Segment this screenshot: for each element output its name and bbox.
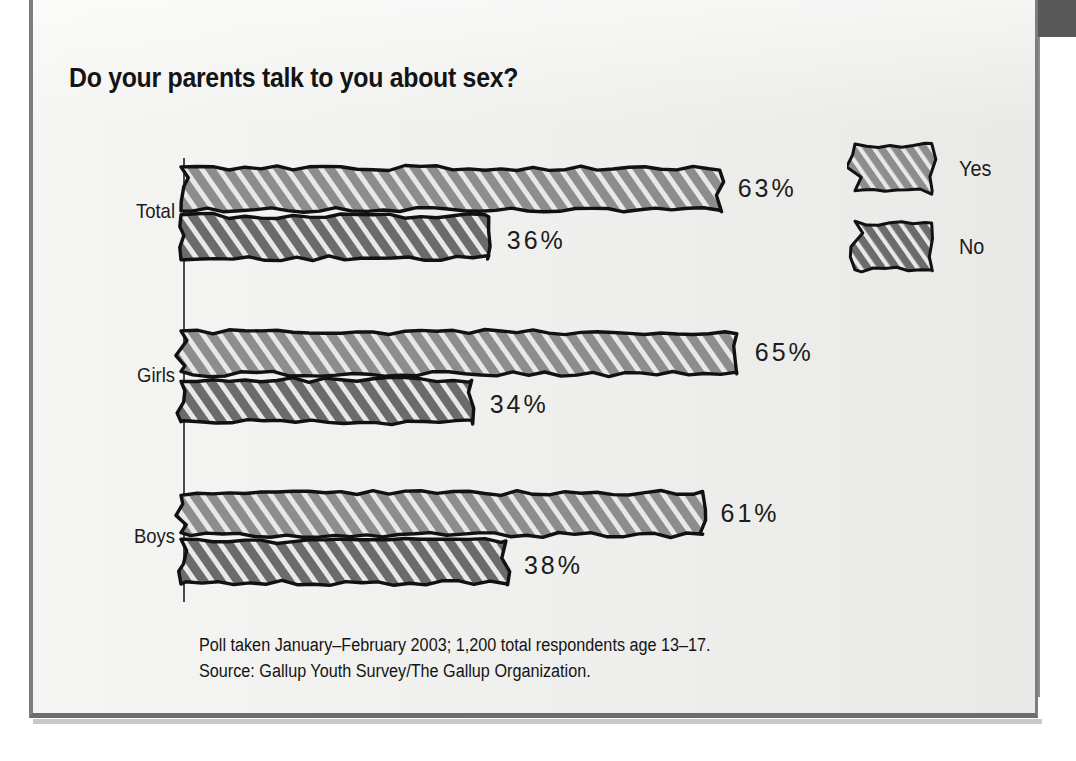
legend-swatch-yes — [847, 140, 943, 200]
legend-swatch-no — [847, 218, 943, 278]
value-label-boys-yes: 61% — [721, 499, 780, 528]
category-label-boys: Boys — [66, 524, 175, 548]
value-label-total-no: 36% — [507, 226, 566, 255]
legend-label-yes: Yes — [959, 156, 991, 182]
value-label-girls-no: 34% — [490, 390, 549, 419]
value-label-girls-yes: 65% — [755, 338, 814, 367]
footnote-line-2: Source: Gallup Youth Survey/The Gallup O… — [199, 658, 711, 684]
legend-label-no: No — [959, 234, 984, 260]
chart-legend: YesNo — [847, 140, 1027, 296]
chart-footnote: Poll taken January–February 2003; 1,200 … — [199, 632, 711, 684]
value-label-total-yes: 63% — [738, 174, 797, 203]
legend-item-yes[interactable]: Yes — [847, 140, 1027, 218]
plot-area: Total63%36%Girls65%34%Boys61%38% — [33, 0, 1042, 718]
category-label-total: Total — [66, 199, 175, 223]
bar-total-no — [171, 206, 499, 268]
figure-drop-shadow — [33, 719, 1042, 724]
value-label-boys-no: 38% — [524, 551, 583, 580]
bar-boys-no — [171, 531, 516, 593]
footnote-line-1: Poll taken January–February 2003; 1,200 … — [199, 632, 711, 658]
page-canvas: Do your parents talk to you about sex? T… — [0, 0, 1076, 761]
legend-item-no[interactable]: No — [847, 218, 1027, 296]
bar-girls-no — [171, 370, 482, 432]
category-label-girls: Girls — [66, 363, 175, 387]
chart-figure-frame: Do your parents talk to you about sex? T… — [29, 0, 1038, 718]
